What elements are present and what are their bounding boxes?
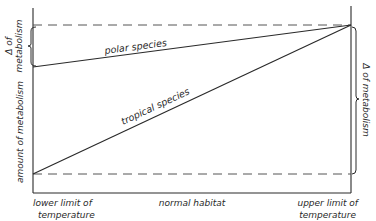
right-delta-label: Δ of metabolism [361, 62, 371, 137]
left-delta-label-line1: Δ of [4, 35, 14, 56]
x-label-normal-habitat: normal habitat [159, 198, 226, 208]
x-label-upper-limit-line1: upper limit of [297, 198, 359, 208]
x-label-lower-limit-line2: temperature [38, 210, 95, 220]
left-delta-bracket [28, 27, 36, 66]
right-delta-bracket [352, 27, 359, 174]
metabolism-diagram: polar species tropical species Δ of meta… [0, 0, 376, 221]
x-label-lower-limit-line1: lower limit of [33, 198, 94, 208]
left-delta-label-line2: metabolism [14, 19, 24, 72]
y-axis-label: amount of metabolism [15, 81, 25, 183]
tropical-species-label: tropical species [119, 85, 191, 126]
polar-species-line [33, 25, 351, 67]
tropical-species-line [33, 25, 351, 174]
x-label-upper-limit-line2: temperature [299, 210, 356, 220]
